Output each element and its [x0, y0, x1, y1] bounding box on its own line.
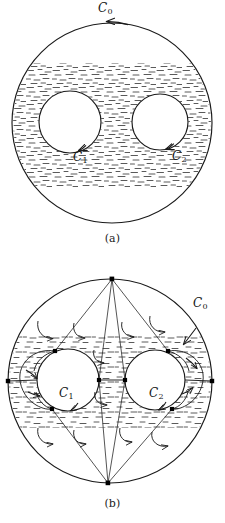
- caption-panel-b: (b): [0, 497, 225, 510]
- label-c0-panel-b: C0: [193, 297, 207, 309]
- label-c2-panel-a: C2: [172, 150, 186, 162]
- label-c0-panel-a: C0: [98, 2, 112, 14]
- label-c2-panel-b: C2: [149, 387, 163, 399]
- figure-canvas: [0, 0, 225, 523]
- panel-a: [0, 0, 225, 523]
- label-c1-panel-b: C1: [59, 387, 73, 399]
- region-shading-a: [0, 0, 225, 523]
- caption-panel-a: (a): [0, 232, 225, 245]
- figure-root: C0 C1 C2 C0 C1 C2 (a) (b): [0, 0, 225, 523]
- label-c1-panel-a: C1: [73, 151, 87, 163]
